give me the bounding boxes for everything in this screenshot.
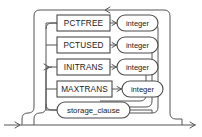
argument-label-pctused: integer bbox=[126, 41, 150, 50]
keyword-label-maxtrans: MAXTRANS bbox=[61, 85, 108, 94]
argument-label-pctfree: integer bbox=[126, 19, 150, 28]
argument-label-maxtrans: integer bbox=[131, 85, 155, 94]
left-spine-top-elbow bbox=[46, 23, 57, 29]
keyword-label-pctused: PCTUSED bbox=[63, 41, 103, 50]
argument-label-initrans: integer bbox=[126, 63, 150, 72]
syntax-diagram-container: PCTFREE integer PCTUSED integer INITRANS… bbox=[0, 0, 202, 137]
row-storage-clause: storage_clause bbox=[57, 102, 130, 118]
row-pctfree: PCTFREE integer bbox=[57, 15, 158, 31]
inner-left-riser bbox=[34, 67, 52, 125]
right-exit-pctused bbox=[100, 45, 158, 107]
keyword-label-pctfree: PCTFREE bbox=[64, 19, 104, 28]
left-spine-bottom-elbow bbox=[46, 104, 57, 110]
keyword-label-storage-clause: storage_clause bbox=[67, 106, 120, 115]
row-pctused: PCTUSED integer bbox=[57, 37, 158, 53]
keyword-label-initrans: INITRANS bbox=[64, 63, 104, 72]
row-initrans: INITRANS integer bbox=[57, 59, 158, 75]
railroad-diagram: PCTFREE integer PCTUSED integer INITRANS… bbox=[0, 0, 202, 137]
row-maxtrans: MAXTRANS integer bbox=[57, 81, 163, 97]
